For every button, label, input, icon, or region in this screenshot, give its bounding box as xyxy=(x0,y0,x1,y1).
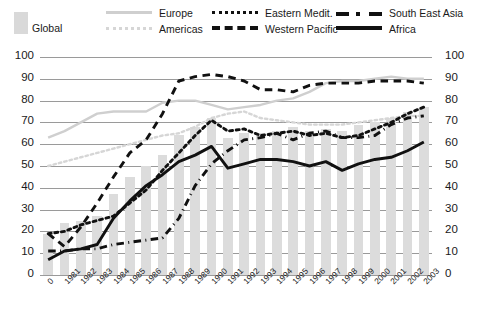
legend-label-south-east-asia: South East Asia xyxy=(389,7,463,19)
y-tick-left-100: 100 xyxy=(4,49,34,61)
line-series-group xyxy=(40,57,432,275)
legend-label-eastern-medit: Eastern Medit. xyxy=(265,7,333,19)
y-tick-right-60: 60 xyxy=(445,136,477,148)
line-eastern-medit xyxy=(48,107,424,233)
legend-swatch-africa xyxy=(336,26,382,30)
line-europe xyxy=(48,77,424,138)
line-africa xyxy=(48,142,424,260)
y-tick-right-0: 0 xyxy=(445,267,477,279)
legend-item-africa: Africa xyxy=(336,23,416,35)
legend-swatch-western-pacific xyxy=(212,26,258,30)
chart-root: Global Europe Eastern Medit. South East … xyxy=(0,0,481,309)
y-tick-right-90: 90 xyxy=(445,71,477,83)
y-tick-right-80: 80 xyxy=(445,93,477,105)
y-tick-left-50: 50 xyxy=(4,158,34,170)
y-tick-right-10: 10 xyxy=(445,245,477,257)
y-tick-left-30: 30 xyxy=(4,202,34,214)
y-tick-right-40: 40 xyxy=(445,180,477,192)
legend-item-eastern-medit: Eastern Medit. xyxy=(212,7,333,19)
legend-swatch-europe xyxy=(106,11,152,14)
y-tick-right-50: 50 xyxy=(445,158,477,170)
y-tick-left-80: 80 xyxy=(4,93,34,105)
y-tick-right-30: 30 xyxy=(445,202,477,214)
legend-swatch-americas xyxy=(106,27,152,30)
y-tick-left-60: 60 xyxy=(4,136,34,148)
legend-item-europe: Europe xyxy=(106,7,193,19)
legend-item-south-east-asia: South East Asia xyxy=(336,7,463,19)
legend-label-africa: Africa xyxy=(389,23,416,35)
legend-item-americas: Americas xyxy=(106,23,203,35)
y-tick-right-20: 20 xyxy=(445,223,477,235)
y-tick-left-0: 0 xyxy=(4,267,34,279)
plot-area xyxy=(40,57,432,275)
legend-label-western-pacific: Western Pacific xyxy=(265,23,338,35)
legend-item-western-pacific: Western Pacific xyxy=(212,23,338,35)
legend-label-americas: Americas xyxy=(159,23,203,35)
legend-swatch-eastern-medit xyxy=(212,11,258,14)
legend-label-europe: Europe xyxy=(159,7,193,19)
legend-label-global: Global xyxy=(32,22,62,34)
y-tick-left-10: 10 xyxy=(4,245,34,257)
chart-legend: Global Europe Eastern Medit. South East … xyxy=(0,0,481,46)
y-tick-right-70: 70 xyxy=(445,114,477,126)
y-tick-left-70: 70 xyxy=(4,114,34,126)
legend-swatch-global xyxy=(14,12,28,34)
x-tick-0: 0 xyxy=(45,276,55,286)
line-americas xyxy=(48,112,424,167)
y-tick-left-90: 90 xyxy=(4,71,34,83)
y-tick-left-20: 20 xyxy=(4,223,34,235)
y-tick-right-100: 100 xyxy=(445,49,477,61)
y-tick-left-40: 40 xyxy=(4,180,34,192)
